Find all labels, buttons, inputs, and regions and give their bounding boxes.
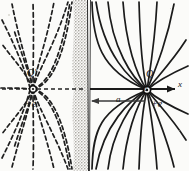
scan-speck xyxy=(60,162,61,163)
field-line-diagram: Q' +e Q e +e a x xyxy=(0,0,189,171)
label-charge-right-center: e xyxy=(144,85,148,93)
label-axis-x: x xyxy=(178,80,182,89)
neutral-band xyxy=(73,0,88,171)
label-charge-right-sign: +e xyxy=(151,99,162,109)
label-charge-left-name: Q' xyxy=(27,68,36,78)
scan-speck xyxy=(170,8,171,9)
scan-speck xyxy=(8,14,10,16)
label-charge-right-name: Q xyxy=(146,69,153,79)
label-distance-a: a xyxy=(116,95,121,104)
separatrix-lines xyxy=(88,0,91,171)
field-lines-left-charge xyxy=(0,2,72,169)
field-lines-right-charge xyxy=(92,2,188,169)
diagram-canvas xyxy=(0,0,189,171)
label-charge-left-sign: +e xyxy=(25,99,36,109)
scan-speck xyxy=(178,130,180,131)
charge-marker-left xyxy=(30,86,37,93)
